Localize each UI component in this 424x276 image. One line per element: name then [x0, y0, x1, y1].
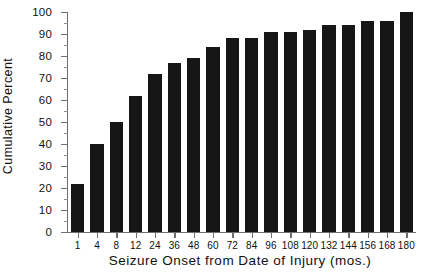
y-minor-tick-55: [64, 111, 68, 112]
bar-144: [342, 25, 356, 232]
x-tick-label: 132: [321, 240, 338, 251]
y-minor-tick-25: [64, 177, 68, 178]
y-tick-80: 80: [61, 56, 68, 57]
y-minor-tick-75: [64, 67, 68, 68]
y-tick-label: 50: [39, 116, 52, 128]
bar-108: [284, 32, 298, 232]
y-axis-title: Cumulative Percent: [0, 0, 16, 232]
y-tick-label: 30: [39, 160, 52, 172]
x-tick-label: 72: [227, 240, 238, 251]
y-tick-50: 50: [61, 122, 68, 123]
x-tick-1: [78, 233, 79, 238]
y-tick-label: 20: [39, 182, 52, 194]
bar-60: [206, 47, 220, 232]
x-tick-108: [290, 233, 291, 238]
x-tick-36: [174, 233, 175, 238]
bar-36: [168, 63, 182, 232]
y-tick-label: 60: [39, 94, 52, 106]
x-tick-84: [252, 233, 253, 238]
plot-area: 0102030405060708090100 14812243648607284…: [68, 12, 416, 232]
y-tick-60: 60: [61, 100, 68, 101]
y-tick-40: 40: [61, 144, 68, 145]
x-tick-label: 84: [246, 240, 257, 251]
x-tick-label: 4: [94, 240, 100, 251]
x-tick-label: 108: [282, 240, 299, 251]
x-tick-168: [387, 233, 388, 238]
x-tick-label: 156: [359, 240, 376, 251]
y-tick-90: 90: [61, 34, 68, 35]
y-tick-label: 80: [39, 50, 52, 62]
bar-168: [380, 21, 394, 232]
bar-4: [90, 144, 104, 232]
y-tick-0: 0: [61, 232, 68, 233]
x-tick-12: [136, 233, 137, 238]
x-axis-line: [62, 232, 416, 233]
y-minor-tick-35: [64, 155, 68, 156]
y-minor-tick-5: [64, 221, 68, 222]
x-tick-132: [329, 233, 330, 238]
x-tick-label: 144: [340, 240, 357, 251]
x-tick-label: 12: [130, 240, 141, 251]
x-axis-title: Seizure Onset from Date of Injury (mos.): [60, 253, 420, 268]
bar-72: [226, 38, 240, 232]
x-tick-180: [406, 233, 407, 238]
y-tick-label: 90: [39, 28, 52, 40]
x-tick-144: [348, 233, 349, 238]
y-minor-tick-65: [64, 89, 68, 90]
y-minor-tick-95: [64, 23, 68, 24]
x-tick-8: [116, 233, 117, 238]
bar-180: [400, 12, 414, 232]
x-tick-48: [194, 233, 195, 238]
y-tick-70: 70: [61, 78, 68, 79]
bar-1: [71, 184, 85, 232]
chart-figure: Cumulative Percent 010203040506070809010…: [0, 0, 424, 276]
bar-156: [361, 21, 375, 232]
x-tick-4: [97, 233, 98, 238]
x-tick-72: [232, 233, 233, 238]
x-tick-120: [310, 233, 311, 238]
x-tick-label: 8: [113, 240, 119, 251]
y-tick-label: 70: [39, 72, 52, 84]
y-minor-tick-45: [64, 133, 68, 134]
x-tick-24: [155, 233, 156, 238]
bar-8: [110, 122, 124, 232]
y-tick-label: 0: [45, 226, 52, 238]
y-tick-label: 10: [39, 204, 52, 216]
x-tick-label: 60: [207, 240, 218, 251]
x-tick-label: 36: [169, 240, 180, 251]
bar-12: [129, 96, 143, 232]
bar-96: [264, 32, 278, 232]
x-tick-96: [271, 233, 272, 238]
x-tick-label: 1: [75, 240, 81, 251]
y-minor-tick-15: [64, 199, 68, 200]
y-tick-100: 100: [61, 12, 68, 13]
x-tick-label: 168: [379, 240, 396, 251]
x-tick-156: [368, 233, 369, 238]
bar-120: [303, 30, 317, 232]
y-tick-20: 20: [61, 188, 68, 189]
x-tick-60: [213, 233, 214, 238]
x-tick-label: 96: [265, 240, 276, 251]
bar-84: [245, 38, 259, 232]
x-tick-label: 24: [149, 240, 160, 251]
y-tick-10: 10: [61, 210, 68, 211]
x-tick-label: 180: [398, 240, 415, 251]
bar-48: [187, 58, 201, 232]
y-tick-label: 100: [32, 6, 52, 18]
y-minor-tick-85: [64, 45, 68, 46]
x-tick-label: 48: [188, 240, 199, 251]
x-tick-label: 120: [301, 240, 318, 251]
y-tick-label: 40: [39, 138, 52, 150]
bar-24: [148, 74, 162, 232]
bar-132: [322, 25, 336, 232]
y-tick-30: 30: [61, 166, 68, 167]
